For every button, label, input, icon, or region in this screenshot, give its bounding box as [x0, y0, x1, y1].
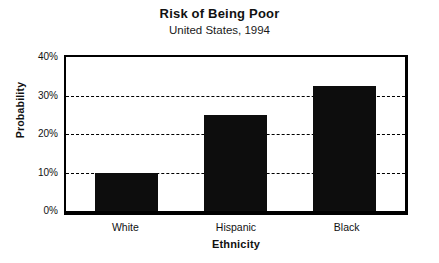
y-tick-label-30: 30%	[24, 91, 58, 101]
y-tick-label-20: 20%	[24, 129, 58, 139]
bar-series	[66, 57, 405, 211]
chart-title-block: Risk of Being Poor United States, 1994	[0, 6, 439, 38]
y-tick-label-10: 10%	[24, 168, 58, 178]
bar-black	[313, 86, 376, 211]
x-axis-tick-labels: White Hispanic Black	[64, 221, 408, 233]
chart-subtitle: United States, 1994	[0, 23, 439, 38]
x-tick-label-black: Black	[315, 221, 378, 233]
bar-hispanic	[204, 115, 267, 211]
bar-white	[95, 173, 158, 212]
x-axis-label: Ethnicity	[64, 238, 408, 250]
x-tick-label-hispanic: Hispanic	[204, 221, 267, 233]
chart-title: Risk of Being Poor	[0, 6, 439, 22]
y-tick-label-40: 40%	[24, 52, 58, 62]
y-tick-label-0: 0%	[24, 206, 58, 216]
bar-chart-figure: Risk of Being Poor United States, 1994 P…	[0, 0, 439, 263]
plot-inner	[66, 57, 405, 211]
plot-area	[64, 55, 408, 215]
y-axis-tick-labels: 40% 30% 20% 10% 0%	[22, 0, 58, 263]
x-tick-label-white: White	[94, 221, 157, 233]
